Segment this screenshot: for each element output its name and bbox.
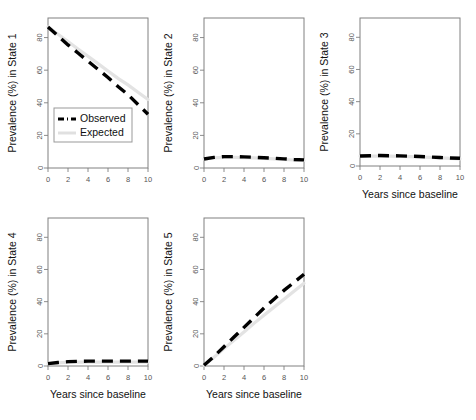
plot-frame (204, 218, 304, 366)
x-tick-label: 10 (300, 373, 308, 382)
x-tick-label: 6 (106, 175, 110, 184)
y-tick-label: 80 (348, 33, 357, 41)
x-tick-label: 0 (358, 173, 362, 182)
x-tick-label: 8 (282, 373, 286, 382)
y-tick-label: 80 (36, 233, 45, 241)
y-axis-title: Prevalence (%) in State 4 (6, 232, 18, 351)
y-tick-label: 40 (192, 99, 201, 107)
x-tick-label: 10 (300, 175, 308, 184)
y-tick-label: 40 (36, 99, 45, 107)
y-axis-title: Prevalence (%) in State 3 (318, 32, 330, 151)
series-observed-line (48, 27, 148, 114)
y-axis-title: Prevalence (%) in State 1 (6, 33, 18, 152)
x-tick-label: 8 (126, 175, 130, 184)
panel-state-5: 0204060800246810Prevalence (%) in State … (160, 206, 312, 416)
y-tick-label: 40 (192, 297, 201, 305)
y-tick-label: 0 (36, 166, 45, 170)
panel-state-3: 0204060800246810Prevalence (%) in State … (316, 6, 468, 216)
y-tick-label: 60 (36, 265, 45, 273)
y-tick-label: 20 (348, 130, 357, 138)
plot-frame (360, 18, 460, 166)
x-tick-label: 4 (398, 173, 402, 182)
y-tick-label: 80 (192, 233, 201, 241)
x-tick-label: 0 (46, 373, 50, 382)
y-axis-title: Prevalence (%) in State 5 (162, 232, 174, 351)
legend-observed-label: Observed (80, 112, 126, 124)
series-expected-line (204, 157, 304, 160)
y-tick-label: 20 (192, 330, 201, 338)
x-tick-label: 4 (86, 175, 90, 184)
x-tick-label: 8 (126, 373, 130, 382)
y-tick-label: 60 (192, 66, 201, 74)
x-tick-label: 10 (144, 175, 152, 184)
figure-panel-grid: 0204060800246810Prevalence (%) in State … (0, 0, 476, 420)
x-tick-label: 6 (418, 173, 422, 182)
y-tick-label: 60 (36, 66, 45, 74)
y-tick-label: 0 (192, 166, 201, 170)
x-axis-title: Years since baseline (362, 188, 458, 200)
series-expected-line (48, 27, 148, 100)
y-tick-label: 0 (36, 364, 45, 368)
y-tick-label: 60 (348, 65, 357, 73)
x-tick-label: 2 (222, 175, 226, 184)
legend: ObservedExpected (54, 108, 132, 142)
x-tick-label: 2 (378, 173, 382, 182)
x-axis-title: Years since baseline (206, 388, 302, 400)
x-tick-label: 10 (144, 373, 152, 382)
y-tick-label: 40 (36, 297, 45, 305)
y-tick-label: 20 (36, 330, 45, 338)
y-tick-label: 80 (36, 33, 45, 41)
x-tick-label: 4 (86, 373, 90, 382)
panel-state-4: 0204060800246810Prevalence (%) in State … (4, 206, 156, 416)
x-tick-label: 4 (242, 373, 246, 382)
x-tick-label: 2 (66, 373, 70, 382)
x-axis-title: Years since baseline (50, 388, 146, 400)
x-tick-label: 6 (262, 373, 266, 382)
x-tick-label: 0 (202, 175, 206, 184)
y-tick-label: 80 (192, 33, 201, 41)
y-tick-label: 20 (36, 131, 45, 139)
y-tick-label: 60 (192, 265, 201, 273)
series-expected-line (360, 156, 460, 159)
series-observed-line (204, 274, 304, 365)
x-tick-label: 10 (456, 173, 464, 182)
y-axis-title: Prevalence (%) in State 2 (162, 33, 174, 152)
x-tick-label: 0 (202, 373, 206, 382)
x-tick-label: 6 (262, 175, 266, 184)
x-tick-label: 0 (46, 175, 50, 184)
x-tick-label: 2 (222, 373, 226, 382)
y-tick-label: 40 (348, 97, 357, 105)
x-tick-label: 6 (106, 373, 110, 382)
series-expected-line (48, 362, 148, 363)
plot-frame (204, 18, 304, 168)
legend-expected-label: Expected (80, 126, 124, 138)
panel-state-1: 0204060800246810Prevalence (%) in State … (4, 6, 156, 202)
x-tick-label: 8 (282, 175, 286, 184)
y-tick-label: 0 (348, 164, 357, 168)
x-tick-label: 4 (242, 175, 246, 184)
y-tick-label: 0 (192, 364, 201, 368)
x-tick-label: 8 (438, 173, 442, 182)
panel-state-2: 0204060800246810Prevalence (%) in State … (160, 6, 312, 202)
plot-frame (48, 218, 148, 366)
y-tick-label: 20 (192, 131, 201, 139)
x-tick-label: 2 (66, 175, 70, 184)
